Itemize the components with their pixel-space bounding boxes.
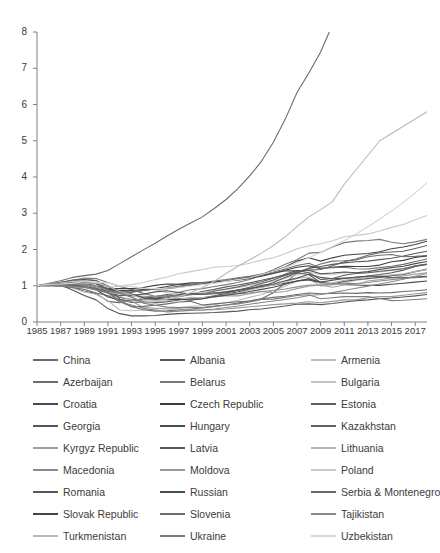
legend-swatch-icon (311, 425, 336, 427)
legend-swatch-icon (160, 403, 185, 405)
legend-label: Hungary (190, 420, 230, 432)
x-tick-label: 2003 (237, 326, 263, 336)
legend-item-latvia[interactable]: Latvia (146, 436, 292, 460)
x-tick-label: 1995 (142, 326, 168, 336)
legend-swatch-icon (160, 447, 185, 449)
legend-label: Uzbekistan (341, 530, 393, 542)
x-tick-label: 1997 (166, 326, 192, 336)
legend-swatch-icon (311, 359, 336, 361)
legend-item-ukraine[interactable]: Ukraine (146, 524, 292, 548)
legend-swatch-icon (33, 403, 58, 405)
legend-swatch-icon (33, 447, 58, 449)
legend-item-czech-republic[interactable]: Czech Republic (146, 392, 292, 416)
legend-label: Croatia (63, 398, 97, 410)
legend-label: Slovenia (190, 508, 230, 520)
x-tick-label: 1993 (119, 326, 145, 336)
legend-item-serbia-montenegro[interactable]: Serbia & Montenegro (292, 480, 438, 504)
legend-item-moldova[interactable]: Moldova (146, 458, 292, 482)
legend-item-china[interactable]: China (0, 348, 146, 372)
legend-item-poland[interactable]: Poland (292, 458, 438, 482)
legend-swatch-icon (311, 447, 336, 449)
x-tick-label: 2007 (284, 326, 310, 336)
legend-item-albania[interactable]: Albania (146, 348, 292, 372)
y-tick-label: 8 (11, 27, 27, 37)
legend-item-armenia[interactable]: Armenia (292, 348, 438, 372)
x-tick-label: 1999 (189, 326, 215, 336)
legend-swatch-icon (33, 491, 58, 493)
legend-label: Lithuania (341, 442, 384, 454)
legend-swatch-icon (33, 513, 58, 515)
legend-row: ChinaAlbaniaArmenia (0, 348, 439, 372)
legend-label: Romania (63, 486, 105, 498)
legend-label: Armenia (341, 354, 380, 366)
x-tick-label: 2011 (331, 326, 357, 336)
x-tick-label: 2013 (355, 326, 381, 336)
legend-swatch-icon (33, 469, 58, 471)
legend-swatch-icon (160, 535, 185, 537)
y-tick-label: 2 (11, 245, 27, 255)
plot-svg (0, 0, 439, 340)
legend-item-slovenia[interactable]: Slovenia (146, 502, 292, 526)
legend-item-romania[interactable]: Romania (0, 480, 146, 504)
legend-item-estonia[interactable]: Estonia (292, 392, 438, 416)
legend-item-russian[interactable]: Russian (146, 480, 292, 504)
legend-swatch-icon (33, 425, 58, 427)
legend-swatch-icon (160, 513, 185, 515)
legend-label: Bulgaria (341, 376, 380, 388)
legend-item-kazakhstan[interactable]: Kazakhstan (292, 414, 438, 438)
chart-legend: ChinaAlbaniaArmeniaAzerbaijanBelarusBulg… (0, 348, 439, 553)
legend-label: Macedonia (63, 464, 114, 476)
legend-swatch-icon (33, 535, 58, 537)
legend-label: Ukraine (190, 530, 226, 542)
legend-item-uzbekistan[interactable]: Uzbekistan (292, 524, 438, 548)
legend-swatch-icon (311, 491, 336, 493)
legend-item-slovak-republic[interactable]: Slovak Republic (0, 502, 146, 526)
legend-label: Albania (190, 354, 225, 366)
legend-item-kyrgyz-republic[interactable]: Kyrgyz Republic (0, 436, 146, 460)
legend-row: AzerbaijanBelarusBulgaria (0, 370, 439, 394)
x-tick-label: 2015 (379, 326, 405, 336)
legend-item-azerbaijan[interactable]: Azerbaijan (0, 370, 146, 394)
legend-item-georgia[interactable]: Georgia (0, 414, 146, 438)
legend-swatch-icon (160, 359, 185, 361)
legend-row: Kyrgyz RepublicLatviaLithuania (0, 436, 439, 460)
legend-row: CroatiaCzech RepublicEstonia (0, 392, 439, 416)
y-tick-label: 7 (11, 63, 27, 73)
x-tick-label: 2017 (402, 326, 428, 336)
legend-swatch-icon (33, 359, 58, 361)
legend-label: China (63, 354, 90, 366)
y-tick-label: 3 (11, 208, 27, 218)
legend-item-macedonia[interactable]: Macedonia (0, 458, 146, 482)
legend-item-turkmenistan[interactable]: Turkmenistan (0, 524, 146, 548)
legend-label: Czech Republic (190, 398, 264, 410)
y-tick-label: 1 (11, 281, 27, 291)
legend-label: Serbia & Montenegro (341, 486, 440, 498)
legend-label: Moldova (190, 464, 230, 476)
legend-swatch-icon (311, 535, 336, 537)
legend-item-lithuania[interactable]: Lithuania (292, 436, 438, 460)
x-tick-label: 2005 (260, 326, 286, 336)
x-tick-label: 1989 (71, 326, 97, 336)
legend-label: Kazakhstan (341, 420, 396, 432)
legend-label: Latvia (190, 442, 218, 454)
legend-label: Russian (190, 486, 228, 498)
legend-item-hungary[interactable]: Hungary (146, 414, 292, 438)
x-tick-label: 1987 (48, 326, 74, 336)
legend-label: Kyrgyz Republic (63, 442, 139, 454)
legend-label: Georgia (63, 420, 100, 432)
legend-item-tajikistan[interactable]: Tajikistan (292, 502, 438, 526)
legend-row: MacedoniaMoldovaPoland (0, 458, 439, 482)
legend-label: Tajikistan (341, 508, 384, 520)
legend-row: RomaniaRussianSerbia & Montenegro (0, 480, 439, 504)
legend-item-belarus[interactable]: Belarus (146, 370, 292, 394)
legend-swatch-icon (160, 491, 185, 493)
legend-swatch-icon (160, 381, 185, 383)
legend-swatch-icon (311, 403, 336, 405)
legend-swatch-icon (160, 425, 185, 427)
legend-item-croatia[interactable]: Croatia (0, 392, 146, 416)
legend-swatch-icon (33, 381, 58, 383)
legend-item-bulgaria[interactable]: Bulgaria (292, 370, 438, 394)
legend-label: Belarus (190, 376, 226, 388)
legend-label: Slovak Republic (63, 508, 138, 520)
x-tick-label: 1985 (24, 326, 50, 336)
